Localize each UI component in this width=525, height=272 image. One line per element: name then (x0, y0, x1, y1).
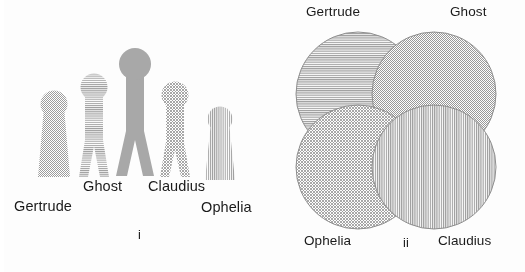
panel-caption-ii: ii (403, 236, 409, 250)
venn-label-gertrude: Gertrude (306, 4, 360, 19)
venn-circle-claudius (372, 105, 496, 229)
figure-label-gertrude: Gertrude (14, 198, 72, 214)
venn-diagram-graphic (278, 0, 525, 272)
venn-label-ophelia: Ophelia (304, 233, 351, 248)
character-figure-ghost (79, 74, 109, 178)
figure-root: Gertrude Ghost Claudius Ophelia i (0, 0, 525, 272)
panel-caption-i: i (138, 228, 141, 242)
character-figure-claudius (160, 82, 190, 178)
panel-character-figures: Gertrude Ghost Claudius Ophelia i (0, 0, 278, 272)
character-figure-gertrude (38, 91, 70, 178)
figure-label-ophelia: Ophelia (201, 199, 252, 215)
character-figure-center-solid (116, 48, 154, 176)
figure-label-claudius: Claudius (148, 178, 205, 194)
character-figure-ophelia (205, 107, 235, 181)
venn-label-ghost: Ghost (450, 4, 487, 19)
figure-label-ghost: Ghost (83, 178, 122, 194)
venn-label-claudius: Claudius (438, 233, 491, 248)
panel-venn-diagram: Gertrude Ghost Ophelia Claudius ii (278, 0, 525, 272)
